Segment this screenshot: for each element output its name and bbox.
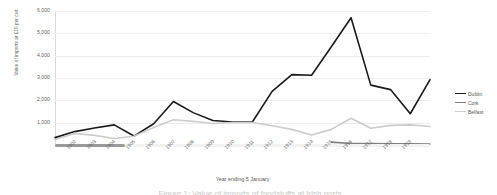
y-axis-tick-labels: 1,0002,0003,0004,0005,0006,000 [20,0,50,195]
series-line-dublin [55,18,430,138]
legend-label: Cork [468,100,479,106]
legend-item-belfast[interactable]: Belfast [455,107,497,116]
y-tick-label: 2,000 [22,97,50,102]
line-chart: Value of imports at £10 per cwt 1,0002,0… [0,0,497,195]
legend-item-cork[interactable]: Cork [455,98,497,107]
x-axis-title: Year ending 5 January [55,176,430,182]
legend-item-dublin[interactable]: Dublin [455,89,497,98]
y-axis-title: Value of imports at £10 per cwt [14,0,19,103]
y-tick-label: 6,000 [22,8,50,13]
y-tick-label: 1,000 [22,120,50,125]
plot-area [55,11,430,145]
y-tick-label: 5,000 [22,30,50,35]
data-series-group [55,11,430,145]
legend-swatch-dublin-icon [455,93,466,94]
legend-swatch-cork-icon [455,102,466,103]
caption-bleed-text: Figure 1: Value of imports of foodstuffs… [30,189,470,195]
legend-label: Belfast [468,109,483,115]
legend-label: Dublin [468,91,482,97]
legend-swatch-belfast-icon [455,111,466,112]
y-tick-label: 3,000 [22,75,50,80]
x-axis-tick-labels: 1902190319041905190619071908190919101911… [55,146,430,172]
chart-legend: DublinCorkBelfast [455,89,497,116]
y-tick-label: 4,000 [22,53,50,58]
